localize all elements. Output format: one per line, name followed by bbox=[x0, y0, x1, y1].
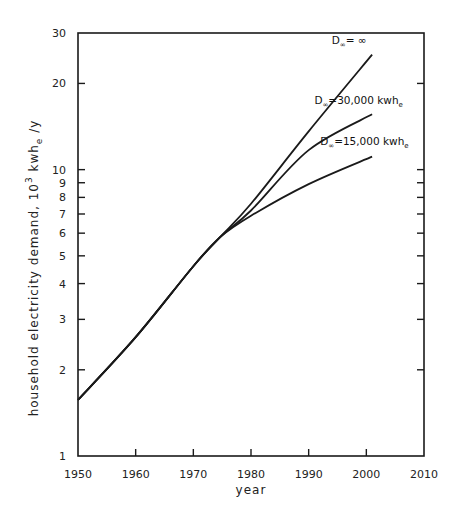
y-tick-label: 1 bbox=[59, 450, 66, 463]
series-line-1 bbox=[78, 114, 372, 400]
y-tick-label: 3 bbox=[59, 313, 66, 326]
x-tick-label: 1950 bbox=[64, 468, 92, 481]
y-tick-label: 9 bbox=[59, 177, 66, 190]
x-tick-label: 2010 bbox=[410, 468, 438, 481]
series-label-2: D∞=15,000 kwhe bbox=[320, 135, 408, 150]
x-axis: 1950196019701980199020002010 bbox=[64, 449, 438, 481]
y-tick-label: 4 bbox=[59, 278, 66, 291]
series-line-2 bbox=[78, 157, 372, 400]
series-annotations: D∞= ∞D∞=30,000 kwheD∞=15,000 kwhe bbox=[314, 34, 408, 150]
y-tick-label: 10 bbox=[52, 164, 66, 177]
y-tick-label: 2 bbox=[59, 364, 66, 377]
y-tick-label: 20 bbox=[52, 77, 66, 90]
y-tick-label: 30 bbox=[52, 27, 66, 40]
y-tick-label: 5 bbox=[59, 250, 66, 263]
y-axis-title: household electricity demand, 103 kwhe /… bbox=[24, 120, 44, 417]
x-axis-title: year bbox=[236, 483, 267, 497]
chart-canvas: 1950196019701980199020002010 12345678910… bbox=[0, 0, 453, 526]
y-axis: 123456789102030 bbox=[52, 27, 424, 463]
series-label-0: D∞= ∞ bbox=[332, 34, 367, 49]
y-tick-label: 7 bbox=[59, 208, 66, 221]
x-tick-label: 1970 bbox=[179, 468, 207, 481]
y-tick-label: 6 bbox=[59, 227, 66, 240]
x-tick-label: 1980 bbox=[237, 468, 265, 481]
y-tick-label: 8 bbox=[59, 191, 66, 204]
x-tick-label: 2000 bbox=[352, 468, 380, 481]
series-label-1: D∞=30,000 kwhe bbox=[314, 94, 402, 109]
x-tick-label: 1960 bbox=[122, 468, 150, 481]
x-tick-label: 1990 bbox=[295, 468, 323, 481]
